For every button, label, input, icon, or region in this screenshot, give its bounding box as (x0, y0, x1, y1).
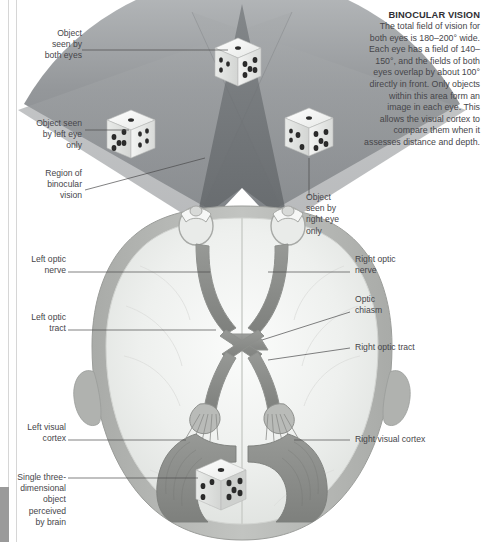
label-right-optic-nerve: Right optic nerve (355, 254, 431, 276)
figure-canvas: Object seen by both eyes Object seen by … (0, 0, 484, 542)
dice-left (107, 110, 155, 158)
info-panel-body: The total field of vision for both eyes … (364, 21, 480, 149)
label-object-seen-by-left-eye: Object seen by left eye only (4, 118, 82, 152)
dice-center-far (215, 38, 261, 86)
label-left-visual-cortex: Left visual cortex (0, 422, 66, 444)
label-region-of-binocular-vision: Region of binocular vision (8, 168, 82, 202)
info-panel-title: BINOCULAR VISION (364, 10, 480, 20)
dice-brain (196, 459, 246, 510)
label-left-optic-tract: Left optic tract (0, 312, 66, 334)
left-lens (190, 206, 202, 216)
right-lens (282, 206, 294, 216)
dice-right (285, 108, 333, 156)
right-eyeball (271, 206, 305, 245)
label-single-three-dimensional-object: Single three- dimensional object perceiv… (0, 472, 66, 528)
label-right-optic-tract: Right optic tract (355, 342, 451, 353)
label-right-visual-cortex: Right visual cortex (355, 434, 465, 445)
label-object-seen-by-right-eye: Object seen by right eye only (306, 192, 362, 237)
info-panel: BINOCULAR VISION The total field of visi… (364, 10, 480, 149)
label-left-optic-nerve: Left optic nerve (0, 254, 66, 276)
label-object-seen-by-both-eyes: Object seen by both eyes (10, 28, 82, 62)
left-eyeball (179, 206, 213, 245)
label-optic-chiasm: Optic chiasm (355, 294, 415, 316)
